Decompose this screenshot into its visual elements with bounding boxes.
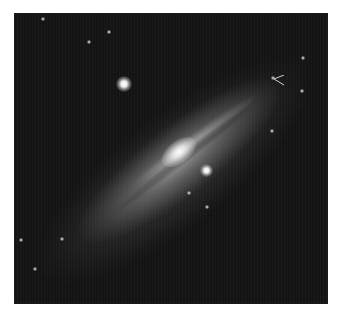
faint-star bbox=[205, 205, 209, 209]
arrow-marker-icon bbox=[270, 75, 286, 91]
figure-caption bbox=[0, 313, 342, 319]
faint-star bbox=[107, 30, 111, 34]
faint-star bbox=[19, 238, 23, 242]
faint-star bbox=[300, 89, 304, 93]
faint-star bbox=[270, 129, 274, 133]
faint-star bbox=[41, 17, 45, 21]
faint-star bbox=[33, 267, 37, 271]
faint-star bbox=[187, 191, 191, 195]
galaxy-photo bbox=[14, 13, 328, 304]
faint-star bbox=[301, 56, 305, 60]
foreground-star bbox=[116, 76, 132, 92]
faint-star bbox=[87, 40, 91, 44]
faint-star bbox=[60, 237, 64, 241]
foreground-star bbox=[200, 164, 213, 177]
